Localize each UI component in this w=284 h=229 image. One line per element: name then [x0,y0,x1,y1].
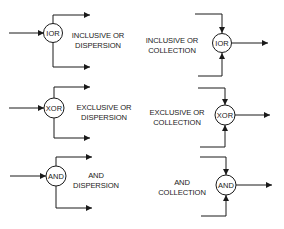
label-line-1: INCLUSIVE OR [142,36,202,46]
and-dispersion-label: AND DISPERSION [70,171,122,191]
label-line-1: AND [154,178,210,188]
output-arrow-upper [53,15,90,24]
input-arrow-lower [198,53,222,76]
junction-diagram: IOR IOR XOR XOR [0,0,284,229]
gate-label: IOR [215,39,229,48]
gate-label: IOR [46,29,60,38]
gate-label: AND [48,172,64,181]
input-arrow-lower [201,195,226,216]
xor-dispersion-label: EXCLUSIVE OR DISPERSION [73,103,135,123]
ior-collection-junction: IOR [195,14,268,76]
ior-collection-label: INCLUSIVE OR COLLECTION [142,36,202,56]
output-arrow-upper [56,157,92,166]
label-line-2: COLLECTION [142,46,202,56]
diagram-canvas: IOR IOR XOR XOR [0,0,284,229]
output-arrow-upper [54,87,90,98]
gate-label: XOR [217,111,234,120]
label-line-2: DISPERSION [73,113,135,123]
input-arrow-upper [198,88,225,105]
label-line-1: INCLUSIVE OR [70,31,126,41]
and-collection-label: AND COLLECTION [154,178,210,198]
input-arrow-upper [200,157,226,175]
label-line-1: AND [70,171,122,181]
gate-label: AND [218,181,234,190]
and-collection-junction: AND [200,157,272,216]
ior-dispersion-label: INCLUSIVE OR DISPERSION [70,31,126,51]
xor-collection-junction: XOR [198,88,270,147]
label-line-2: COLLECTION [146,118,208,128]
xor-collection-label: EXCLUSIVE OR COLLECTION [146,108,208,128]
label-line-2: DISPERSION [70,41,126,51]
label-line-2: DISPERSION [70,181,122,191]
input-arrow-lower [200,125,225,147]
label-line-1: EXCLUSIVE OR [73,103,135,113]
label-line-1: EXCLUSIVE OR [146,108,208,118]
label-line-2: COLLECTION [154,188,210,198]
gate-label: XOR [46,104,63,113]
input-arrow-upper [195,14,222,33]
